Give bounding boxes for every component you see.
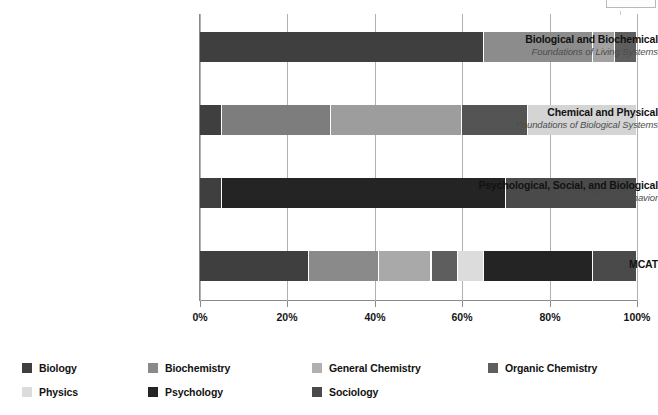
bar-segment-biochemistry[interactable] — [309, 251, 378, 281]
legend-label: General Chemistry — [329, 362, 421, 374]
legend-label: Sociology — [329, 386, 378, 398]
category-title: Chemical and Physical — [466, 107, 658, 119]
tickmark-80pct — [550, 301, 551, 307]
x-tick-label-100pct: 100% — [624, 311, 651, 323]
tickmark-20pct — [287, 301, 288, 307]
legend-label: Organic Chemistry — [505, 362, 597, 374]
legend-swatch-icon — [22, 363, 32, 373]
bar-segment-biology[interactable] — [200, 251, 308, 281]
legend-item-physics[interactable]: Physics — [22, 386, 78, 398]
x-axis-line — [200, 300, 637, 301]
legend-item-psychology[interactable]: Psychology — [148, 386, 223, 398]
bar-segment-organic-chemistry[interactable] — [432, 251, 457, 281]
tickmark-100pct — [637, 301, 638, 307]
bar-segment-psychology[interactable] — [222, 178, 505, 208]
bar-segment-biology[interactable] — [200, 178, 221, 208]
category-title: Psychological, Social, and Biological — [466, 180, 658, 192]
category-label: MCAT — [466, 259, 658, 271]
category-subtitle: Foundations of Behavior — [466, 193, 658, 204]
legend-swatch-icon — [148, 363, 158, 373]
category-subtitle: Foundations of Living Systems — [466, 47, 658, 58]
bar-segment-biology[interactable] — [200, 105, 221, 135]
category-title: MCAT — [466, 259, 658, 271]
legend-item-biology[interactable]: Biology — [22, 362, 77, 374]
legend-label: Biology — [39, 362, 77, 374]
chart-legend: BiologyBiochemistryGeneral ChemistryOrga… — [0, 358, 658, 410]
bar-segment-general-chemistry[interactable] — [331, 105, 461, 135]
x-tick-label-20pct: 20% — [276, 311, 297, 323]
legend-item-sociology[interactable]: Sociology — [312, 386, 378, 398]
legend-swatch-icon — [312, 363, 322, 373]
legend-swatch-icon — [488, 363, 498, 373]
scan-speck — [620, 11, 621, 15]
legend-swatch-icon — [22, 387, 32, 397]
scan-artifact — [606, 0, 656, 8]
legend-item-organic-chemistry[interactable]: Organic Chemistry — [488, 362, 597, 374]
legend-label: Psychology — [165, 386, 223, 398]
x-tick-label-80pct: 80% — [539, 311, 560, 323]
legend-item-biochemistry[interactable]: Biochemistry — [148, 362, 230, 374]
x-tick-label-60pct: 60% — [451, 311, 472, 323]
bar-segment-general-chemistry[interactable] — [379, 251, 430, 281]
stacked-bar-chart: Biological and BiochemicalFoundations of… — [0, 0, 658, 415]
legend-label: Biochemistry — [165, 362, 230, 374]
legend-item-general-chemistry[interactable]: General Chemistry — [312, 362, 421, 374]
tickmark-60pct — [462, 301, 463, 307]
bar-segment-biology[interactable] — [200, 32, 483, 62]
tickmark-40pct — [375, 301, 376, 307]
bar-segment-biochemistry[interactable] — [222, 105, 330, 135]
tickmark-0pct — [200, 301, 201, 307]
legend-swatch-icon — [148, 387, 158, 397]
category-label: Chemical and PhysicalFoundations of Biol… — [466, 107, 658, 130]
x-tick-label-40pct: 40% — [364, 311, 385, 323]
legend-swatch-icon — [312, 387, 322, 397]
category-title: Biological and Biochemical — [466, 34, 658, 46]
x-tick-label-0pct: 0% — [192, 311, 207, 323]
category-label: Biological and BiochemicalFoundations of… — [466, 34, 658, 57]
category-subtitle: Foundations of Biological Systems — [466, 120, 658, 131]
category-label: Psychological, Social, and BiologicalFou… — [466, 180, 658, 203]
legend-label: Physics — [39, 386, 78, 398]
